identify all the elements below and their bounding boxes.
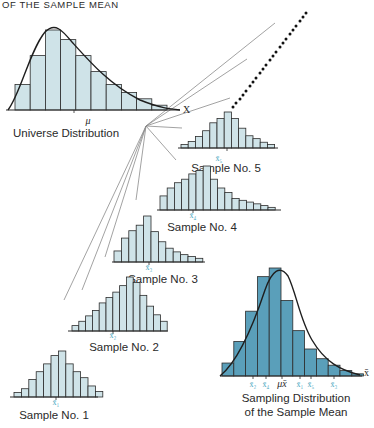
sample-4-label: Sample No. 4 xyxy=(167,221,237,233)
universe-label: Universe Distribution xyxy=(13,127,119,139)
sampling-distribution-chart xyxy=(220,268,364,379)
tick-xbar2: x̄₂ xyxy=(250,380,257,389)
sample-2-histogram xyxy=(68,277,168,334)
header-title: OF THE SAMPLE MEAN xyxy=(2,0,119,10)
sampling-label-line1: Sampling Distribution xyxy=(242,392,351,404)
universe-mean-symbol: μ xyxy=(84,115,90,126)
sampling-axis-label: x̄ xyxy=(364,367,369,378)
tick-xbar1: x̄₁ xyxy=(297,380,304,389)
sample-1-mean: x̄₁ xyxy=(53,398,60,407)
sample-1-label: Sample No. 1 xyxy=(19,409,89,421)
tick-mu-xbar: μx̄ xyxy=(276,378,287,389)
tick-xbar3: x̄₃ xyxy=(331,380,338,389)
dotted-continuation-line xyxy=(232,12,308,109)
sampling-tick-labels: x̄₂ x̄₄ μx̄ x̄₁ x̄₅ x̄₃ xyxy=(250,378,338,389)
sampling-label-line2: of the Sample Mean xyxy=(245,406,348,418)
sample-5-histogram xyxy=(178,112,278,151)
diagram-canvas: OF THE SAMPLE MEAN μ Universe Distributi… xyxy=(0,0,374,428)
sample-1-histogram xyxy=(10,351,103,400)
universe-distribution-chart xyxy=(6,27,180,113)
universe-axis-label: X xyxy=(183,104,191,115)
sample-2-mean: x̄₂ xyxy=(110,331,117,340)
tick-xbar4: x̄₄ xyxy=(263,380,270,389)
sample-3-mean: x̄₃ xyxy=(146,263,153,272)
sample-4-mean: x̄₄ xyxy=(190,211,197,220)
tick-xbar5: x̄₅ xyxy=(308,380,315,389)
sample-2-label: Sample No. 2 xyxy=(89,341,159,353)
